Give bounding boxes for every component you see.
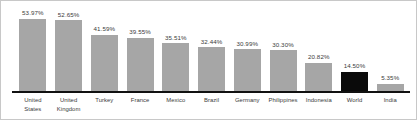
category-label: Philippines [265,96,301,118]
bar-group: 30.99% [229,7,265,91]
bar-value-label: 30.30% [272,42,294,48]
bar-value-label: 39.55% [129,29,151,35]
plot-area: 53.97%52.65%41.59%39.55%35.51%32.44%30.9… [1,1,416,119]
category-label: Indonesia [301,96,337,118]
bar-rect [341,72,368,91]
bar-value-label: 35.51% [165,35,187,41]
bar-chart-figure: 53.97%52.65%41.59%39.55%35.51%32.44%30.9… [0,0,417,120]
bar-rect [270,50,297,91]
bar-value-label: 14.50% [344,63,366,69]
bar-rect [91,35,118,91]
category-label: France [122,96,158,118]
bar-value-label: 41.59% [94,26,116,32]
bar-group: 41.59% [86,7,122,91]
category-label: World [337,96,373,118]
bar-rect [19,19,46,92]
bar-group: 53.97% [15,7,51,91]
bar-group: 20.82% [301,7,337,91]
bar-rect [305,63,332,91]
bar-group: 30.30% [265,7,301,91]
category-label: Germany [229,96,265,118]
category-label: UnitedKingdom [51,96,87,118]
x-axis-category-labels: UnitedStatesUnitedKingdomTurkeyFranceMex… [15,96,408,118]
bar-value-label: 20.82% [308,54,330,60]
category-label: Turkey [86,96,122,118]
category-label: Brazil [194,96,230,118]
bar-rect [234,49,261,91]
bar-value-label: 30.99% [236,41,258,47]
bar-group: 14.50% [337,7,373,91]
bar-rect [198,47,225,91]
bar-group: 5.35% [372,7,408,91]
category-label: India [372,96,408,118]
bar-value-label: 52.65% [58,12,80,18]
category-label: Mexico [158,96,194,118]
bar-series: 53.97%52.65%41.59%39.55%35.51%32.44%30.9… [15,7,408,91]
bar-group: 52.65% [51,7,87,91]
bar-group: 32.44% [194,7,230,91]
bar-value-label: 53.97% [22,10,44,16]
bar-value-label: 32.44% [201,39,223,45]
bar-group: 39.55% [122,7,158,91]
bar-value-label: 5.35% [381,75,399,81]
category-label: UnitedStates [15,96,51,118]
bar-group: 35.51% [158,7,194,91]
bar-rect [377,84,404,91]
bar-rect [162,43,189,91]
bar-rect [55,20,82,91]
x-axis-baseline [12,91,410,93]
bar-rect [127,38,154,91]
